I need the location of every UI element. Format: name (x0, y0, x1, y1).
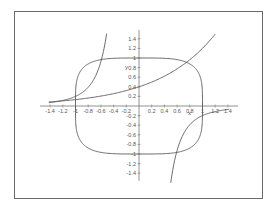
x-tick-label: -0.4 (109, 108, 118, 114)
x-tick-label: 1.4 (224, 108, 232, 114)
y-axis-label: y (125, 64, 128, 70)
x-tick-label: -0.6 (96, 108, 105, 114)
y-tick-label: -1.2 (127, 161, 136, 167)
y-tick-label: -0.2 (127, 113, 136, 119)
y-tick-label: -0.6 (127, 132, 136, 138)
chart-plot: -1.4-1.2-1-0.8-0.6-0.4-0.20.20.40.60.811… (0, 0, 274, 210)
y-tick-label: 1.2 (128, 45, 136, 51)
axes (40, 30, 238, 181)
x-tick-label: -1.4 (45, 108, 54, 114)
hyperbola-upper-branch (49, 34, 107, 103)
y-tick-label: 0.2 (128, 93, 136, 99)
y-tick-label: 0.8 (128, 65, 136, 71)
x-axis-label: x (188, 110, 191, 116)
y-tick-label: -0.8 (127, 141, 136, 147)
x-tick-label: -1.2 (58, 108, 67, 114)
x-tick-label: 0.4 (161, 108, 169, 114)
y-tick-label: -1.4 (127, 170, 136, 176)
y-tick-label: -0.4 (127, 122, 136, 128)
y-tick-label: 0.6 (128, 74, 136, 80)
hyperbola-lower-branch (171, 109, 229, 182)
x-tick-label: -0.8 (83, 108, 92, 114)
x-tick-label: 0.6 (173, 108, 181, 114)
x-tick-label: 0.2 (148, 108, 156, 114)
y-tick-label: 1.4 (128, 36, 136, 42)
